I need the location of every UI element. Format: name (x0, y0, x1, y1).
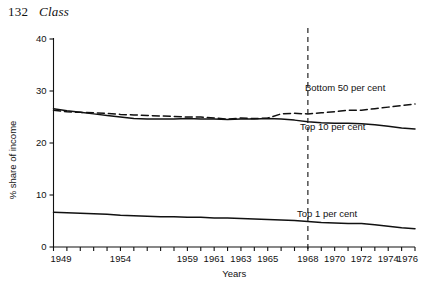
x-tick-label: 1976 (397, 253, 418, 264)
x-tick-label: 1968 (297, 253, 318, 264)
y-tick-labels: 010203040 (36, 33, 47, 252)
x-axis-title: Years (222, 268, 246, 279)
y-tick-label: 30 (36, 85, 47, 96)
x-tick-label: 1954 (110, 253, 131, 264)
y-tick-label: 40 (36, 33, 47, 44)
chart-canvas: 010203040 194919541959196119631965196819… (0, 0, 428, 292)
x-tick-label: 1963 (230, 253, 251, 264)
series-labels: Bottom 50 per centTop 10 per centTop 1 p… (297, 82, 386, 219)
series-label: Top 1 per cent (297, 208, 358, 219)
x-tick-label: 1959 (177, 253, 198, 264)
y-tick-label: 20 (36, 137, 47, 148)
y-tick-label: 10 (36, 189, 47, 200)
series-label: Top 10 per cent (300, 121, 366, 132)
y-axis-title: % share of income (7, 121, 18, 200)
x-tick-labels: 1949195419591961196319651968197019721974… (51, 253, 419, 264)
x-tick-label: 1949 (51, 253, 72, 264)
income-share-line-chart: 010203040 194919541959196119631965196819… (0, 0, 428, 292)
axes (54, 38, 416, 247)
x-tick-label: 1965 (257, 253, 278, 264)
series-label: Bottom 50 per cent (305, 82, 386, 93)
x-tick-label: 1972 (351, 253, 372, 264)
y-tick-label: 0 (41, 241, 46, 252)
series-line (54, 212, 416, 229)
series-line (54, 104, 416, 119)
x-tick-label: 1970 (324, 253, 345, 264)
x-tick-label: 1961 (204, 253, 225, 264)
x-tick-label: 1974 (378, 253, 399, 264)
axis-ticks (50, 39, 416, 251)
